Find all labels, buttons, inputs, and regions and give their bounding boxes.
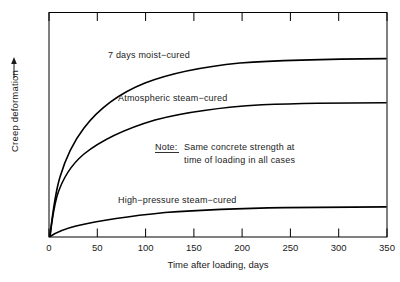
curve-label-high-pressure-steam-cured: High−pressure steam−cured [118, 195, 237, 205]
curve-atmospheric-steam-cured [50, 103, 386, 236]
x-tick-label: 0 [46, 242, 51, 253]
x-tick-label: 150 [186, 242, 202, 253]
y-axis-title: Creep deformation [9, 70, 20, 152]
x-tick-label: 350 [379, 242, 395, 253]
x-tick-label: 250 [282, 242, 298, 253]
x-tick-label: 300 [331, 242, 347, 253]
curve-label-atmospheric-steam-cured: Atmospheric steam−cured [118, 93, 227, 103]
chart-figure: 0 50 100 150 200 250 300 350 Time after … [0, 0, 400, 282]
x-tick-label: 50 [92, 242, 103, 253]
x-tick-label: 200 [234, 242, 250, 253]
curve-label-7-days-moist-cured: 7 days moist−cured [108, 50, 190, 60]
y-axis-arrow-head [11, 57, 17, 64]
x-tick-labels: 0 50 100 150 200 250 300 350 [46, 242, 395, 253]
x-tick-label: 100 [138, 242, 154, 253]
bottom-axis-ticks [49, 229, 387, 238]
curve-high-pressure-steam-cured [50, 207, 386, 237]
note-annotation: Note: Same concrete strength at time of … [155, 142, 295, 165]
creep-deformation-chart: 0 50 100 150 200 250 300 350 Time after … [0, 0, 400, 282]
note-line-1: Same concrete strength at [184, 142, 295, 152]
top-axis-ticks [49, 13, 387, 22]
note-prefix: Note: [155, 142, 178, 152]
y-axis-title-group: Creep deformation [9, 57, 20, 152]
x-axis-title: Time after loading, days [167, 259, 268, 270]
note-line-2: time of loading in all cases [184, 155, 295, 165]
